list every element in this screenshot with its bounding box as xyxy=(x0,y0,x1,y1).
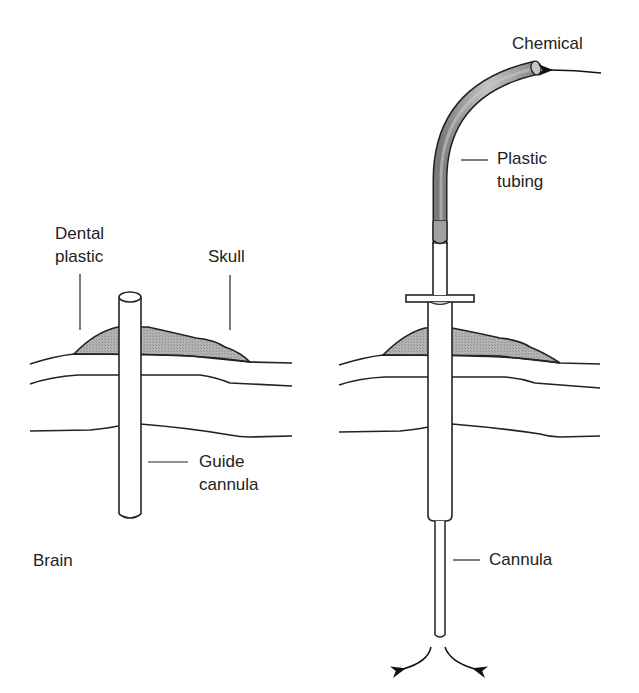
brain-surface-line xyxy=(30,424,292,437)
injection-cannula xyxy=(435,521,445,637)
outflow-arrow-left xyxy=(403,647,431,669)
cannula-stem xyxy=(433,242,447,295)
label-dental-plastic-2: plastic xyxy=(55,246,103,268)
skull-top-line-right xyxy=(339,355,600,365)
label-skull: Skull xyxy=(208,246,245,268)
dental-plastic-mound xyxy=(74,327,250,362)
label-chemical: Chemical xyxy=(512,33,583,55)
skull-bottom-line xyxy=(30,375,292,386)
label-guide-cannula-2: cannula xyxy=(199,474,259,496)
brain-surface-line-right xyxy=(339,424,600,437)
skull-top-line xyxy=(30,354,292,364)
label-cannula: Cannula xyxy=(489,549,552,571)
guide-cannula-right xyxy=(428,302,452,521)
label-dental-plastic-1: Dental xyxy=(55,223,104,245)
outflow-arrow-right xyxy=(445,647,475,669)
skull-bottom-line-right xyxy=(339,377,600,388)
right-panel xyxy=(339,60,601,669)
label-plastic-tubing-1: Plastic xyxy=(497,148,547,170)
label-plastic-tubing-2: tubing xyxy=(497,171,543,193)
label-brain: Brain xyxy=(33,550,73,572)
dental-plastic-mound-right xyxy=(383,328,560,363)
guide-cannula xyxy=(119,292,141,518)
cannula-collar xyxy=(406,295,474,302)
diagram-canvas xyxy=(0,0,639,693)
chemical-inflow-arrow xyxy=(550,70,601,73)
label-guide-cannula-1: Guide xyxy=(199,451,244,473)
